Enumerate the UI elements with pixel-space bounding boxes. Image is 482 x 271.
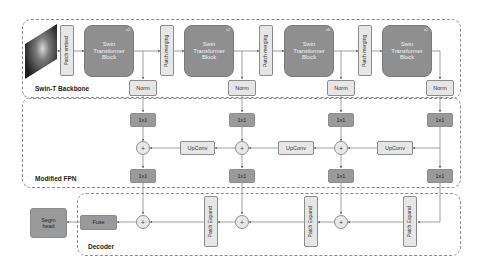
patch-expand-label: Patch Expand: [208, 206, 214, 237]
swin-block-stage-4: Swin Transformer Block x2: [382, 25, 432, 77]
patch-merging-2: Patch merging: [259, 25, 273, 76]
conv1x1-output-4: 1x1: [427, 169, 453, 183]
block-multiplier: x2: [126, 28, 130, 32]
block-multiplier: x2: [226, 28, 230, 32]
decoder-add-1: +: [136, 215, 150, 229]
patch-embed-label: Patch embed: [64, 36, 70, 65]
conv1x1-lateral-4: 1x1: [427, 113, 453, 127]
patch-merging-label: Patch merging: [362, 34, 368, 66]
swin-block-label: Swin Transformer Block: [390, 41, 424, 61]
conv1x1-output-1: 1x1: [130, 169, 156, 183]
fpn-label: Modified FPN: [35, 175, 77, 182]
fuse-block: Fuse: [80, 215, 117, 230]
fpn-add-1: +: [136, 141, 150, 155]
patch-expand-label: Patch Expand: [308, 206, 314, 237]
conv1x1-output-3: 1x1: [328, 169, 354, 183]
swin-block-label: Swin Transformer Block: [92, 41, 126, 61]
patch-merging-1: Patch merging: [160, 25, 174, 76]
decoder-add-2: +: [235, 215, 249, 229]
patch-expand-2: Patch Expand: [304, 196, 318, 247]
swin-block-stage-3: Swin Transformer Block x6: [284, 25, 334, 77]
norm-2: Norm: [228, 80, 256, 96]
conv1x1-output-2: 1x1: [229, 169, 255, 183]
conv1x1-lateral-2: 1x1: [229, 113, 255, 127]
patch-merging-label: Patch merging: [263, 34, 269, 66]
segm-head-label: Segm head: [38, 217, 60, 230]
patch-expand-1: Patch Expand: [204, 196, 218, 247]
conv1x1-lateral-3: 1x1: [328, 113, 354, 127]
norm-1: Norm: [129, 80, 157, 96]
swin-block-stage-2: Swin Transformer Block x2: [184, 25, 234, 77]
upconv-1: UpConv: [180, 141, 215, 155]
conv1x1-lateral-1: 1x1: [130, 113, 156, 127]
norm-4: Norm: [426, 80, 454, 96]
swin-block-stage-1: Swin Transformer Block x2: [84, 25, 134, 77]
patch-merging-label: Patch merging: [164, 34, 170, 66]
block-multiplier: x2: [424, 28, 428, 32]
upconv-3: UpConv: [377, 141, 413, 155]
swin-block-label: Swin Transformer Block: [192, 41, 226, 61]
swin-block-label: Swin Transformer Block: [292, 41, 326, 61]
norm-3: Norm: [327, 80, 355, 96]
backbone-label: Swin-T Backbone: [35, 85, 89, 92]
patch-merging-3: Patch merging: [358, 25, 372, 76]
fpn-add-2: +: [235, 141, 249, 155]
segm-head: Segm head: [30, 208, 67, 238]
upconv-2: UpConv: [278, 141, 314, 155]
decoder-add-3: +: [334, 215, 348, 229]
patch-embed-block: Patch embed: [60, 25, 74, 76]
patch-expand-3: Patch Expand: [403, 196, 417, 247]
fpn-add-3: +: [334, 141, 348, 155]
block-multiplier: x6: [326, 28, 330, 32]
decoder-label: Decoder: [88, 243, 114, 250]
input-image-icon: [25, 24, 57, 79]
patch-expand-label: Patch Expand: [407, 206, 413, 237]
